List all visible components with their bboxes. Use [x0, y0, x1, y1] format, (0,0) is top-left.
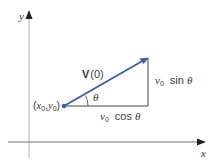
horizontal-component-label: v0 cos θ — [100, 111, 140, 123]
vertical-sub: 0 — [160, 80, 164, 87]
vertical-func: sin — [170, 74, 184, 86]
vector-name: V — [82, 68, 89, 80]
horizontal-sub: 0 — [105, 116, 109, 123]
x-axis-label: x — [201, 148, 206, 159]
y-axis-label: y — [19, 11, 24, 22]
vector-label: V(0) — [82, 69, 104, 80]
vertical-angle: θ — [187, 74, 192, 86]
vector-arg: (0) — [90, 68, 103, 80]
origin-point-dot — [62, 104, 67, 109]
vertical-component-label: v0 sin θ — [155, 75, 192, 87]
horizontal-angle: θ — [135, 110, 140, 122]
x-axis-arrow-icon — [197, 139, 206, 146]
y-axis-arrow-icon — [26, 10, 33, 19]
angle-label: θ — [93, 92, 98, 103]
velocity-vector — [64, 60, 145, 107]
paren-close: ) — [57, 99, 61, 111]
horizontal-func: cos — [115, 110, 132, 122]
origin-point-label: (x0,y0) — [33, 100, 60, 112]
angle-arc — [86, 96, 88, 106]
